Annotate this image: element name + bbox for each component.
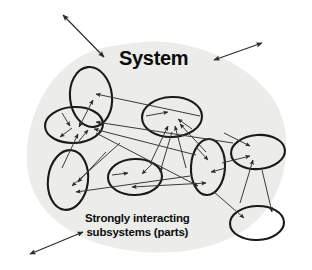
environment-arrow-top-left <box>63 15 104 57</box>
subsystems-caption-line-1: Strongly interacting <box>85 212 190 226</box>
environment-arrow-bottom-left <box>30 232 83 254</box>
diagram-canvas: System Strongly interacting subsystems (… <box>0 0 312 270</box>
environment-arrow-top-right <box>214 43 262 60</box>
subsystems-caption-line-2: subsystems (parts) <box>85 226 190 240</box>
system-title-label: System <box>119 47 188 70</box>
subsystems-caption: Strongly interacting subsystems (parts) <box>85 212 190 239</box>
